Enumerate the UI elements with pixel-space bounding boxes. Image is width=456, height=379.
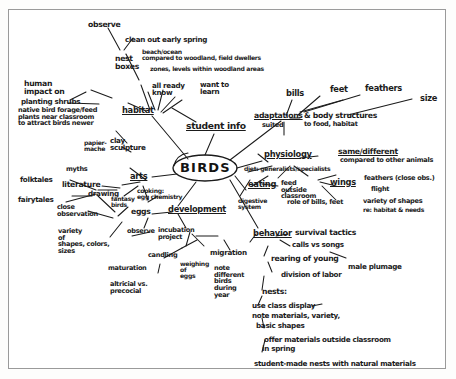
branch-label-arts[interactable]: arts (130, 172, 147, 180)
node-survival-tactics: survival tactics (295, 229, 356, 237)
node-human-impact-on: human impact on (24, 80, 64, 96)
node-migration: migration (210, 249, 247, 256)
branch-label-nests[interactable]: nests: (262, 288, 287, 296)
node-same-different: same/different (338, 148, 398, 156)
center-node-label: BIRDS (180, 160, 231, 175)
node-clean-out-early-spring: clean out early spring (125, 36, 207, 43)
node-eggs: eggs (131, 208, 151, 216)
node-observe-nestbox: observe (88, 21, 121, 29)
node-feet: feet (330, 85, 348, 93)
node-feathers-close-obs: feathers (close obs.) (364, 175, 434, 182)
node-feathers: feathers (365, 84, 402, 92)
spoke-habitat (152, 116, 188, 159)
mindmap-page: BIRDS habitat nest boxes observe clean o… (0, 0, 456, 379)
branch-label-habitat[interactable]: habitat (122, 106, 154, 114)
node-note-different-birds: note different birds during year (214, 265, 244, 299)
node-use-class-display: use class display (252, 302, 315, 309)
node-re-habitat-needs: re: habitat & needs (363, 207, 424, 213)
node-nest-boxes: nest boxes (115, 55, 139, 71)
branch-label-student-info[interactable]: student info (186, 121, 246, 130)
node-variety-shapes-colors-sizes: variety of shapes, colors, sizes (58, 228, 109, 255)
node-student-made-nests: student-made nests with natural material… (254, 360, 416, 367)
node-digestive-system: digestive system (238, 198, 267, 210)
node-wings: wings (330, 178, 356, 186)
node-division-of-labor: division of labor (281, 271, 341, 278)
node-weighing-of-eggs: weighing of eggs (180, 261, 209, 280)
node-folktales: folktales (20, 176, 53, 183)
node-beach-ocean-compared: beach/ocean compared to woodland, field … (142, 49, 261, 61)
node-fairytales: fairytales (18, 196, 54, 203)
node-native-plants: native bird forage/feed plants near clas… (18, 107, 97, 127)
node-body-structures: & body structures (304, 112, 377, 120)
node-close-observation: close observation (57, 204, 98, 217)
node-in-spring: in spring (262, 345, 295, 352)
node-variety-of-shapes: variety of shapes (363, 198, 422, 205)
node-note-materials-variety: note materials, variety, (252, 312, 340, 319)
node-calls-vs-songs: calls vs songs (292, 241, 344, 248)
node-role-of-bills-feet: role of bills, feet (287, 199, 343, 206)
node-diet-generalists-specialists: diet: generalists/specialists (244, 166, 330, 172)
node-flight: flight (371, 186, 389, 193)
node-size: size (420, 94, 437, 102)
node-incubation-project: incubation project (158, 227, 194, 240)
node-clay-sculpture: clay sculpture (110, 137, 146, 152)
branch-label-physiology[interactable]: physiology (264, 150, 312, 158)
branch-label-behavior[interactable]: behavior (253, 229, 292, 237)
node-male-plumage: male plumage (348, 263, 402, 270)
node-offer-materials-outside: offer materials outside classroom (264, 336, 391, 343)
node-cooking-egg-chemistry: cooking: egg chemistry (137, 188, 182, 200)
node-bills: bills (286, 89, 304, 97)
spoke-studentinfo (205, 134, 214, 155)
branch-label-adaptations[interactable]: adaptations (254, 112, 303, 120)
node-rearing-of-young: rearing of young (271, 255, 339, 263)
branch-label-development[interactable]: development (168, 205, 226, 213)
spoke-arts (152, 174, 177, 177)
node-zones-levels: zones, levels within woodland areas (150, 66, 264, 72)
spoke-eating (235, 176, 246, 190)
node-maturation: maturation (108, 265, 147, 272)
node-compared-other-animals: compared to other animals (340, 157, 433, 164)
node-myths: myths (66, 166, 87, 173)
node-to-food-habitat: to food, habitat (304, 121, 358, 128)
node-candling: candling (148, 252, 177, 259)
node-basic-shapes: basic shapes (256, 322, 304, 329)
node-already-know: all ready know (152, 82, 185, 97)
node-suited: suited (262, 122, 283, 129)
node-want-to-learn: want to learn (200, 81, 229, 96)
node-literature: literature (62, 181, 100, 189)
node-altricial-vs-precocial: altricial vs. precocial (110, 281, 147, 294)
node-planting-shrubs: planting shrubs (21, 98, 80, 105)
node-eating[interactable]: eating (248, 180, 276, 188)
node-observe-eggs: observe (127, 228, 155, 235)
node-papier-mache: papier- mache (84, 140, 107, 152)
